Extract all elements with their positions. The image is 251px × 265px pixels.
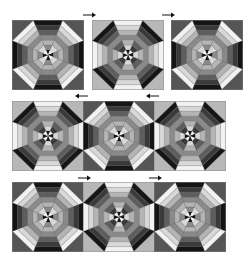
web-stripe — [38, 192, 59, 197]
web-stripe — [35, 161, 60, 166]
web-stripe — [177, 187, 202, 192]
arrow-head — [158, 176, 162, 181]
web-stripe — [104, 247, 133, 252]
quilt-block — [154, 101, 226, 171]
press-direction-arrow — [162, 12, 175, 18]
web-stripe — [182, 197, 199, 202]
web-stripe — [33, 166, 62, 171]
web-stripe — [106, 161, 131, 166]
web-stripe — [165, 207, 170, 227]
arrow-head — [171, 13, 175, 18]
web-stripe — [182, 116, 199, 121]
web-stripe — [175, 183, 204, 188]
web-stripe — [227, 45, 232, 65]
press-direction-arrow — [83, 12, 96, 18]
web-stripe — [144, 124, 149, 148]
quilt-block-svg — [154, 182, 226, 252]
quilt-block — [12, 20, 84, 90]
quilt-block-svg — [83, 182, 155, 252]
quilt-block-svg — [83, 101, 155, 171]
web-stripe — [40, 151, 57, 156]
web-stripe — [111, 116, 128, 121]
web-stripe — [18, 43, 23, 67]
web-stripe — [111, 232, 128, 237]
web-stripe — [113, 21, 142, 26]
web-stripe — [33, 183, 62, 188]
arrow-right-icon — [83, 12, 96, 18]
quilt-block — [12, 182, 84, 252]
arrow-right-icon — [162, 12, 175, 18]
web-stripe — [94, 207, 99, 227]
web-stripe — [177, 242, 202, 247]
web-stripe — [106, 242, 131, 247]
web-stripe — [28, 209, 33, 225]
web-stripe — [78, 41, 83, 70]
web-stripe — [13, 122, 18, 151]
web-stripe — [38, 237, 59, 242]
web-stripe — [35, 106, 60, 111]
web-stripe — [134, 209, 139, 225]
quilt-block-svg — [12, 20, 84, 90]
web-stripe — [210, 207, 215, 227]
web-stripe — [18, 124, 23, 148]
web-stripe — [210, 126, 215, 146]
web-stripe — [28, 47, 33, 63]
web-stripe — [143, 47, 148, 63]
web-stripe — [28, 128, 33, 144]
web-stripe — [220, 203, 225, 232]
web-stripe — [180, 192, 201, 197]
web-stripe — [23, 126, 28, 146]
quilt-block-svg — [92, 20, 164, 90]
web-stripe — [73, 43, 78, 67]
web-stripe — [106, 106, 131, 111]
web-stripe — [115, 80, 140, 85]
web-stripe — [73, 205, 78, 229]
web-stripe — [197, 30, 218, 35]
quilt-block — [154, 182, 226, 252]
web-stripe — [35, 187, 60, 192]
web-stripe — [104, 102, 133, 107]
web-stripe — [40, 197, 57, 202]
web-stripe — [155, 203, 160, 232]
web-stripe — [109, 237, 130, 242]
web-stripe — [175, 247, 204, 252]
web-stripe — [215, 124, 220, 148]
web-stripe — [13, 41, 18, 70]
web-stripe — [177, 106, 202, 111]
web-stripe — [84, 122, 89, 151]
press-direction-arrow — [75, 93, 88, 99]
web-stripe — [89, 124, 94, 148]
web-stripe — [33, 102, 62, 107]
web-stripe — [180, 237, 201, 242]
web-stripe — [220, 122, 225, 151]
press-direction-arrow — [78, 175, 91, 181]
web-stripe — [40, 116, 57, 121]
web-stripe — [177, 161, 202, 166]
web-stripe — [99, 209, 104, 225]
web-stripe — [89, 205, 94, 229]
web-stripe — [94, 126, 99, 146]
web-stripe — [160, 205, 165, 229]
web-stripe — [134, 128, 139, 144]
web-stripe — [155, 122, 160, 151]
web-stripe — [194, 80, 219, 85]
arrow-left-icon — [146, 93, 159, 99]
web-stripe — [153, 43, 158, 67]
arrow-right-icon — [149, 175, 162, 181]
web-stripe — [103, 45, 108, 65]
web-stripe — [175, 166, 204, 171]
web-stripe — [118, 75, 139, 80]
web-stripe — [23, 45, 28, 65]
web-stripe — [187, 47, 192, 63]
web-stripe — [180, 111, 201, 116]
web-stripe — [68, 207, 73, 227]
web-stripe — [33, 21, 62, 26]
web-stripe — [13, 203, 18, 232]
web-stripe — [192, 85, 221, 90]
web-stripe — [158, 41, 163, 70]
web-stripe — [38, 156, 59, 161]
quilt-block-svg — [12, 182, 84, 252]
web-stripe — [120, 35, 137, 40]
web-stripe — [177, 43, 182, 67]
quilt-block — [83, 182, 155, 252]
